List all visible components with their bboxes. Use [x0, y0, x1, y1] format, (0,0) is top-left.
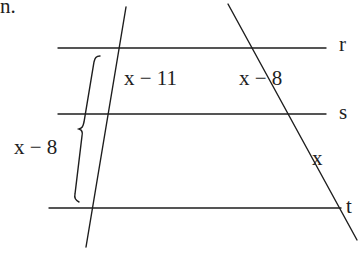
right-transversal: [228, 4, 357, 240]
line-s-label: s: [339, 102, 347, 123]
line-r-label: r: [339, 34, 346, 55]
brace-label: x − 8: [14, 137, 57, 158]
segment-left-rs-label: x − 11: [124, 68, 177, 89]
line-t-label: t: [346, 196, 352, 217]
curly-brace: [75, 56, 100, 202]
parallel-lines-diagram: [0, 0, 358, 259]
segment-right-rs-label: x − 8: [239, 68, 282, 89]
segment-right-st-label: x: [312, 148, 323, 169]
caption-fragment: n.: [0, 0, 16, 17]
left-transversal: [86, 7, 126, 247]
